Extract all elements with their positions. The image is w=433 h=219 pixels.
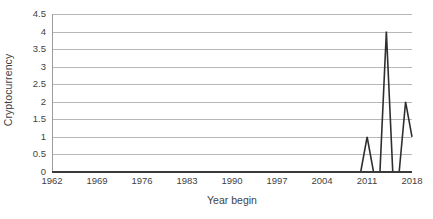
x-axis-tick-label: 2018 [401,176,422,186]
y-axis-tick-label: 2.5 [33,79,46,89]
cryptocurrency-line-chart: Cryptocurrency 00.511.522.533.544.5 1962… [0,0,433,219]
y-axis-title-label: Cryptocurrency [2,54,14,127]
x-axis-tick-label: 2011 [357,176,377,186]
x-axis-tick-label: 1997 [266,176,287,186]
plot-area [52,14,412,172]
x-axis-tick-labels: 196219691976198319901997200420112018 [52,176,412,192]
y-axis-tick-labels: 00.511.522.533.544.5 [16,8,49,178]
y-axis-title: Cryptocurrency [0,0,16,180]
x-axis-tick-label: 1969 [86,176,107,186]
x-axis-title: Year begin [52,194,412,206]
y-axis-tick-label: 3 [41,62,46,72]
y-axis-tick-label: 2 [41,97,46,107]
x-axis-baseline [52,171,412,173]
x-axis-tick-label: 1983 [176,176,197,186]
y-axis-tick-label: 0.5 [33,150,46,160]
series-line-cryptocurrency [53,14,412,172]
y-axis-tick-label: 1 [41,132,46,142]
y-axis-tick-label: 4 [41,27,46,37]
y-axis-tick-label: 4.5 [33,9,46,19]
x-axis-tick-label: 1962 [41,176,62,186]
x-axis-tick-label: 1976 [131,176,152,186]
y-axis-tick-label: 1.5 [33,115,46,125]
x-axis-tick-label: 1990 [221,176,242,186]
y-axis-tick-label: 3.5 [33,44,46,54]
x-axis-tick-label: 2004 [311,176,332,186]
